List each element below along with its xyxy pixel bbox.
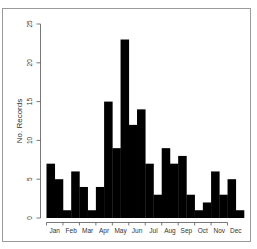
bar xyxy=(178,156,187,218)
x-tick-label: Jun xyxy=(132,227,143,234)
y-tick-label: 25 xyxy=(26,20,33,28)
bar xyxy=(145,164,154,218)
bar xyxy=(88,210,97,218)
y-tick-label: 15 xyxy=(26,98,33,106)
bar xyxy=(79,187,88,218)
bar xyxy=(71,171,80,218)
bar xyxy=(63,210,72,218)
bar xyxy=(211,171,220,218)
bar xyxy=(121,40,130,218)
bar xyxy=(137,109,146,218)
x-tick-label: Feb xyxy=(66,227,78,234)
bar xyxy=(104,102,113,218)
bar xyxy=(162,148,171,218)
bars xyxy=(47,40,245,218)
y-axis-label: No. Records xyxy=(15,99,24,143)
x-tick-label: Mar xyxy=(82,227,94,234)
bar xyxy=(170,164,179,218)
bar xyxy=(236,210,245,218)
bar-chart: 0510152025 JanFebMarAprMayJunJulAugSepOc… xyxy=(0,0,257,249)
y-axis: 0510152025 xyxy=(26,20,41,220)
bar xyxy=(47,164,56,218)
x-tick-label: May xyxy=(114,227,127,235)
bar xyxy=(186,195,195,218)
bar xyxy=(228,179,237,218)
x-axis: JanFebMarAprMayJunJulAugSepOctNovDec xyxy=(47,223,243,236)
bar xyxy=(96,187,105,218)
bar xyxy=(153,195,162,218)
bar xyxy=(112,148,121,218)
x-tick-label: Oct xyxy=(198,227,208,234)
x-tick-label: Nov xyxy=(214,227,226,234)
x-tick-label: Jan xyxy=(49,227,60,234)
y-tick-label: 20 xyxy=(26,59,33,67)
y-tick-label: 10 xyxy=(26,136,33,144)
x-tick-label: Jul xyxy=(149,227,158,234)
bar xyxy=(195,210,204,218)
x-tick-label: Apr xyxy=(99,227,110,235)
bar xyxy=(219,195,228,218)
x-tick-label: Sep xyxy=(181,227,193,235)
bar xyxy=(129,125,138,218)
x-tick-label: Aug xyxy=(164,227,176,235)
bar xyxy=(55,179,64,218)
y-tick-label: 5 xyxy=(26,177,33,181)
x-tick-label: Dec xyxy=(230,227,242,234)
bar xyxy=(203,202,212,218)
y-tick-label: 0 xyxy=(26,216,33,220)
